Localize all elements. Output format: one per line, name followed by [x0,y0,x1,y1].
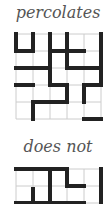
lattice-diagram-does-not [0,0,110,204]
non-percolating-grid [0,0,110,204]
